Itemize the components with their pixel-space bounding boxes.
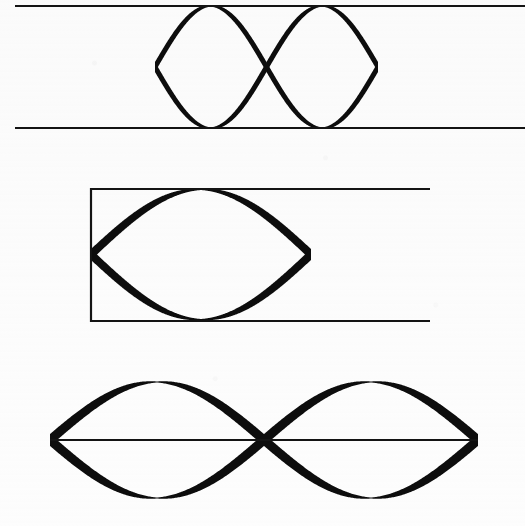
figure-1-generated-curves bbox=[155, 5, 378, 128]
figure-2-generated-curves bbox=[91, 189, 311, 320]
figure-2-sinusoid-b bbox=[91, 249, 311, 320]
figure-3-canvas bbox=[0, 370, 525, 526]
drawing-sheet bbox=[0, 0, 525, 526]
figure-1-sinusoid-b bbox=[155, 5, 378, 128]
figure-2-boxed-band bbox=[0, 175, 525, 340]
figure-3-double-lens bbox=[0, 370, 525, 526]
figure-2-sinusoid-a bbox=[91, 189, 311, 260]
figure-2-canvas bbox=[0, 175, 525, 340]
figure-1-open-band bbox=[0, 0, 525, 160]
figure-1-frame-rules bbox=[15, 6, 525, 128]
figure-1-canvas bbox=[0, 0, 525, 160]
